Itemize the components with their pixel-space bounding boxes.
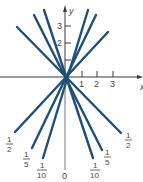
svg-text:10: 10 (37, 171, 46, 180)
y-axis-arrow (63, 5, 67, 12)
x-tick-label-3: 3 (110, 79, 115, 89)
diagram-canvas: y x 2 3 1 2 3 0 1 2 1 5 1 10 1 10 1 (0, 0, 143, 182)
x-tick-label-1: 1 (79, 79, 84, 89)
x-axis-arrow (137, 75, 143, 79)
svg-text:2: 2 (126, 141, 131, 150)
svg-text:1: 1 (105, 148, 110, 157)
line-left-tenth (44, 10, 93, 158)
svg-text:1: 1 (24, 150, 29, 159)
svg-text:5: 5 (24, 160, 29, 169)
svg-text:2: 2 (7, 145, 12, 154)
label-left-tenth: 1 10 (37, 161, 47, 180)
y-axis-label: y (68, 6, 74, 16)
svg-text:1: 1 (93, 161, 98, 170)
x-tick-label-2: 2 (94, 79, 99, 89)
svg-text:5: 5 (105, 158, 110, 167)
label-left-half: 1 2 (6, 135, 13, 154)
zero-label: 0 (62, 171, 67, 181)
line-right-fifth (32, 15, 96, 148)
svg-text:1: 1 (126, 131, 131, 140)
label-right-fifth: 1 5 (104, 148, 111, 167)
svg-text:1: 1 (7, 135, 12, 144)
label-left-fifth: 1 5 (23, 150, 30, 169)
y-tick-label-2: 2 (57, 38, 62, 48)
label-right-tenth: 1 10 (90, 161, 100, 180)
x-axis-label: x (139, 82, 143, 92)
svg-text:1: 1 (40, 161, 45, 170)
svg-text:10: 10 (90, 171, 99, 180)
y-tick-label-3: 3 (57, 21, 62, 31)
label-right-half: 1 2 (125, 131, 132, 150)
